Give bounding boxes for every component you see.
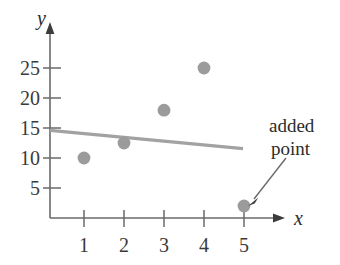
y-tick-label-20: 20 — [20, 87, 40, 109]
y-tick-label-10: 10 — [20, 147, 40, 169]
annotation-label-line2: point — [271, 138, 311, 159]
x-axis-arrowhead — [273, 213, 285, 222]
y-axis-arrowhead — [46, 22, 55, 34]
y-tick-label-5: 5 — [30, 177, 40, 199]
x-tick-label-1: 1 — [79, 234, 89, 256]
x-tick-label-3: 3 — [159, 234, 169, 256]
y-tick-label-25: 25 — [20, 57, 40, 79]
y-axis-label: y — [35, 7, 46, 30]
data-point-3 — [158, 104, 171, 117]
annotation-label-line1: added — [269, 115, 315, 136]
annotation-arrow-shaft — [254, 158, 286, 199]
x-tick-label-4: 4 — [199, 234, 209, 256]
y-ticks-group — [43, 68, 61, 188]
data-point-4 — [198, 62, 211, 75]
scatter-plot-svg: 25 20 15 10 5 1 2 3 4 5 y x added poin — [0, 0, 340, 265]
regression-line — [50, 130, 243, 148]
annotation-arrow — [248, 158, 286, 206]
data-point-2 — [118, 137, 131, 150]
chart-figure: 25 20 15 10 5 1 2 3 4 5 y x added poin — [0, 0, 340, 265]
data-point-5-added — [238, 200, 251, 213]
axis-group — [46, 22, 285, 223]
x-tick-label-2: 2 — [119, 234, 129, 256]
x-axis-label: x — [293, 207, 303, 229]
annotation-arrowhead — [248, 198, 258, 206]
y-tick-label-15: 15 — [20, 117, 40, 139]
data-point-1 — [78, 152, 91, 165]
x-tick-label-5: 5 — [239, 234, 249, 256]
